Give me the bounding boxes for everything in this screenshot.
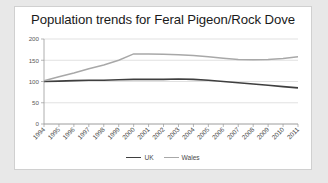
legend-item-uk[interactable]: UK (126, 154, 153, 161)
x-axis-tick: 2010 (270, 125, 285, 140)
x-axis-tick: 1995 (46, 125, 61, 140)
legend-swatch-wales (164, 157, 179, 158)
x-axis-tick: 2001 (136, 125, 151, 140)
x-axis-tick: 2000 (121, 125, 136, 140)
y-axis-tick: 50 (32, 99, 39, 106)
x-axis-tick: 2002 (151, 125, 166, 140)
x-axis-tick: 2008 (240, 125, 255, 140)
x-axis-tick: 1996 (61, 125, 76, 140)
y-axis-tick: 100 (29, 78, 40, 85)
y-axis-tick: 200 (29, 35, 40, 42)
chart-card: Population trends for Feral Pigeon/Rock … (14, 6, 312, 170)
x-axis-tick: 2005 (196, 125, 211, 140)
series-line-uk (44, 79, 298, 88)
line-chart-plot: 0501001502001994199519961997199819992000… (15, 7, 313, 171)
legend-label-uk: UK (144, 154, 153, 161)
x-axis-tick: 2009 (255, 125, 270, 140)
x-axis-tick: 2004 (181, 125, 196, 140)
y-axis-tick: 150 (29, 57, 40, 64)
x-axis-tick: 1999 (106, 125, 121, 140)
series-line-wales (44, 54, 298, 81)
x-axis-tick: 1998 (91, 125, 106, 140)
y-axis-tick: 0 (36, 120, 40, 127)
legend-item-wales[interactable]: Wales (164, 154, 200, 161)
x-axis-tick: 2006 (210, 125, 225, 140)
x-axis-tick: 2007 (225, 125, 240, 140)
x-axis-tick: 1997 (76, 125, 91, 140)
legend-swatch-uk (126, 157, 141, 158)
x-axis-tick: 2003 (166, 125, 181, 140)
x-axis-tick: 1994 (31, 125, 46, 140)
chart-legend: UK Wales (15, 154, 311, 161)
legend-label-wales: Wales (182, 154, 200, 161)
x-axis-tick: 2011 (286, 125, 301, 140)
